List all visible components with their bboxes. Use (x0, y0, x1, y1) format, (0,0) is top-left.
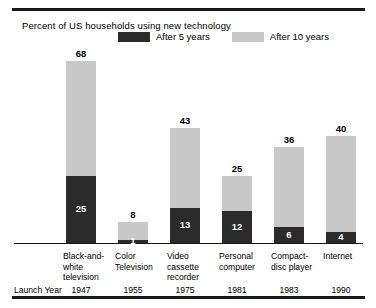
bar-5: 6 (274, 147, 304, 243)
category-label-line: recorder (167, 272, 223, 283)
bar-value-after-5-years: 1 (130, 236, 135, 247)
bar-6: 4 (326, 136, 356, 243)
launch-year-value: 1955 (113, 285, 153, 295)
bar-value-after-10-years: 40 (326, 123, 356, 134)
launch-year-value: 1990 (321, 285, 361, 295)
category-label-line: Color (115, 251, 171, 262)
bar-4: 12 (222, 176, 252, 243)
category-label-line: Black-and- (63, 251, 119, 262)
category-label-line: disc player (271, 262, 327, 273)
category-label-line: television (63, 272, 119, 283)
category-label-line: Video (167, 251, 223, 262)
launch-year-value: 1947 (61, 285, 101, 295)
bar-1: 25 (66, 61, 96, 243)
bar-value-after-5-years: 4 (338, 232, 343, 243)
launch-year-label: Launch Year (14, 285, 62, 295)
bottom-rule (12, 296, 365, 299)
bar-segment-after-5-years: 6 (274, 227, 304, 243)
category-label: ColorTelevision (115, 251, 171, 272)
category-label-line: Compact- (271, 251, 327, 262)
bar-value-after-10-years: 25 (222, 163, 252, 174)
bar-segment-after-5-years: 25 (66, 176, 96, 243)
plot-area: 2568Black-and-whitetelevision194718Color… (0, 0, 376, 308)
bar-segment-after-5-years: 12 (222, 211, 252, 243)
chart-figure: Percent of US households using new techn… (0, 0, 376, 308)
category-label: Compact-disc player (271, 251, 327, 272)
launch-year-value: 1981 (217, 285, 257, 295)
category-label-line: computer (219, 262, 275, 273)
launch-year-value: 1983 (269, 285, 309, 295)
bar-value-after-10-years: 68 (66, 48, 96, 59)
category-label-line: Personal (219, 251, 275, 262)
bar-value-after-5-years: 13 (180, 220, 191, 231)
bar-value-after-10-years: 43 (170, 115, 200, 126)
category-label-line: Television (115, 262, 171, 273)
axis-baseline (14, 243, 363, 244)
bar-segment-after-5-years: 4 (326, 232, 356, 243)
category-label: Internet (323, 251, 376, 262)
category-label: Black-and-whitetelevision (63, 251, 119, 283)
bar-value-after-5-years: 6 (286, 230, 291, 241)
category-label-line: cassette (167, 262, 223, 273)
category-label-line: white (63, 262, 119, 273)
launch-year-value: 1975 (165, 285, 205, 295)
bar-value-after-10-years: 8 (118, 209, 148, 220)
bar-segment-after-5-years: 1 (118, 240, 148, 243)
bar-segment-after-10-years (326, 136, 356, 243)
bar-2: 1 (118, 222, 148, 243)
category-label-line: Internet (323, 251, 376, 262)
category-label: Personalcomputer (219, 251, 275, 272)
category-label: Videocassetterecorder (167, 251, 223, 283)
bar-3: 13 (170, 128, 200, 243)
bar-value-after-10-years: 36 (274, 134, 304, 145)
bar-value-after-5-years: 25 (76, 204, 87, 215)
bar-segment-after-5-years: 13 (170, 208, 200, 243)
bar-value-after-5-years: 12 (232, 222, 243, 233)
